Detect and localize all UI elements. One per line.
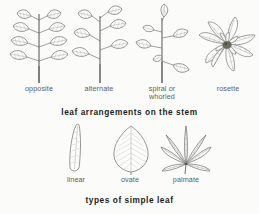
caption-simple-leaf-types: types of simple leaf — [0, 195, 259, 205]
leaf-type-label-palmate: palmate — [160, 176, 212, 184]
arrangement-label-rosette: rosette — [197, 85, 259, 93]
rosette-leaf-plant-icon — [196, 8, 258, 80]
leaf-type-label-ovate: ovate — [109, 176, 151, 184]
arrangement-label-opposite: opposite — [8, 85, 70, 93]
spiral-whorled-leaf-plant-icon — [133, 4, 191, 84]
linear-leaf-icon — [56, 124, 96, 176]
arrangement-label-spiral-whorled: spiral or whorled — [133, 85, 191, 101]
alternate-leaf-plant-icon — [70, 4, 130, 84]
botanical-figure: opposite — [0, 0, 259, 214]
opposite-leaf-plant-icon — [8, 4, 70, 84]
ovate-leaf-icon — [110, 124, 152, 176]
palmate-leaf-icon — [160, 124, 212, 176]
caption-leaf-arrangements: leaf arrangements on the stem — [0, 107, 259, 117]
arrangement-label-alternate: alternate — [69, 85, 129, 93]
leaf-type-label-linear: linear — [56, 176, 96, 184]
